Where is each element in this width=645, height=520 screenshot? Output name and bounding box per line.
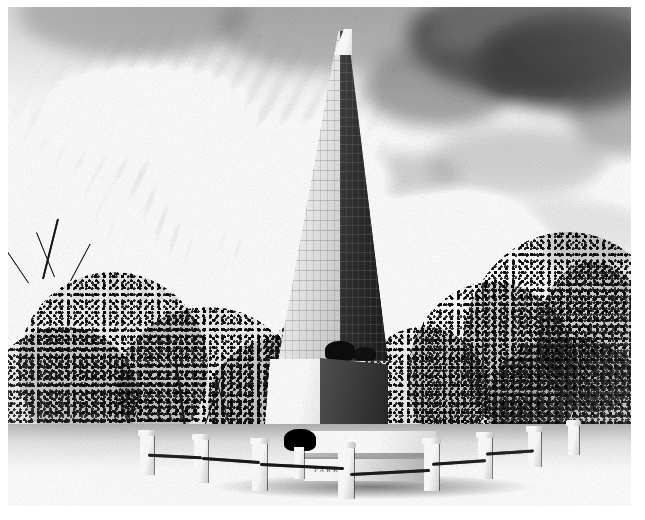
bronze-crab-right (354, 347, 376, 361)
fence-post-cap (566, 420, 581, 426)
obelisk-hieroglyphs (340, 31, 388, 361)
fence-post-cap (476, 432, 494, 438)
fence-post-cap (336, 442, 356, 448)
obelisk-lit-face-texture (278, 31, 350, 361)
fence-post-cap (138, 430, 156, 436)
photograph: PARK (8, 7, 631, 506)
fence-post-2 (194, 439, 208, 483)
fence-post-cap (250, 438, 269, 444)
fence-post-6 (478, 437, 492, 479)
fence-post-3 (252, 443, 267, 491)
fence-post-cap (526, 426, 543, 432)
fence-post-8 (568, 425, 579, 455)
page-root: PARK (0, 0, 645, 520)
fence-post-cap (422, 438, 441, 444)
urn-pedestal (294, 447, 304, 479)
bronze-crab-left (325, 341, 355, 361)
fence-post-5 (424, 443, 439, 491)
fence-post-cap (192, 434, 210, 440)
